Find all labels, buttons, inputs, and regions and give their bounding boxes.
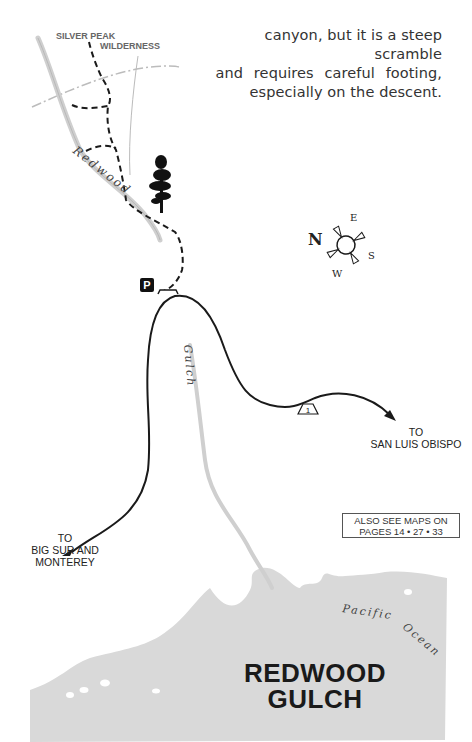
trail-spur-upper [72,105,108,108]
intro-line: and requires careful footing, [202,64,442,83]
intro-paragraph: canyon, but it is a steep scramble and r… [202,26,442,102]
title-line: REDWOOD [230,660,400,686]
see-also-line: ALSO SEE MAPS ON [343,515,459,526]
destination-line: TO [15,532,115,544]
wilderness-label-line2: WILDERNESS [100,41,160,51]
map-canvas: 1 Redwood Gulch Pacific Ocean [0,0,472,742]
destination-line: TO [366,426,466,438]
redwood-creek-label: Redwood [69,143,134,198]
highway-shield-label: 1 [306,406,311,415]
destination-line: BIG SUR AND [15,544,115,556]
tree-icon [149,155,171,213]
parking-icon: P [140,278,154,292]
trail-spur-lower [86,146,116,151]
islet [100,680,110,687]
intro-line: canyon, but it is a steep scramble [202,26,442,64]
islet [80,687,89,693]
destination-san-luis-obispo: TO SAN LUIS OBISPO [366,426,466,450]
creek-fork [130,56,138,175]
pacific-ocean-area [30,568,447,742]
islet [152,689,160,694]
destination-big-sur: TO BIG SUR AND MONTEREY [15,532,115,568]
islet [66,692,74,698]
compass-east: E [350,212,357,223]
gulch-creek [190,345,272,588]
compass-north: N [308,230,323,249]
see-also-line: PAGES 14 • 27 • 33 [343,526,459,537]
islet [404,589,412,595]
compass-west: W [332,268,342,279]
compass-south: S [368,250,375,261]
compass-icon [319,218,374,273]
destination-line: MONTEREY [15,556,115,568]
intro-line: especially on the descent. [202,83,442,102]
see-also-box: ALSO SEE MAPS ON PAGES 14 • 27 • 33 [342,513,460,538]
title-line: GULCH [230,686,400,712]
destination-line: SAN LUIS OBISPO [366,438,466,450]
wilderness-label-line1: SILVER PEAK [56,31,115,41]
map-title: REDWOOD GULCH [230,660,400,712]
parking-lot [158,290,178,294]
gulch-creek-label: Gulch [181,344,198,388]
